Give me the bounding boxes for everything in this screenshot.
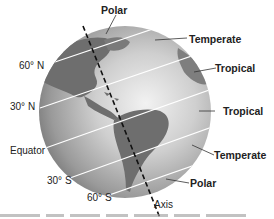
label-polar-north: Polar — [101, 5, 127, 16]
label-tropical-north: Tropical — [215, 63, 255, 74]
label-30n: 30° N — [10, 102, 35, 112]
climate-zones-diagram: Polar Temperate Tropical Tropical Temper… — [0, 0, 274, 219]
label-temperate-north: Temperate — [189, 34, 241, 45]
label-tropical-equator: Tropical — [223, 106, 263, 117]
label-polar-south: Polar — [190, 178, 216, 189]
label-temperate-south: Temperate — [214, 150, 266, 161]
label-axis: Axis — [154, 200, 173, 210]
label-60s: 60° S — [87, 193, 112, 203]
label-60n: 60° N — [19, 61, 44, 71]
caption-cut-off — [0, 214, 274, 219]
label-equator: Equator — [10, 146, 45, 156]
label-30s: 30° S — [47, 176, 72, 186]
